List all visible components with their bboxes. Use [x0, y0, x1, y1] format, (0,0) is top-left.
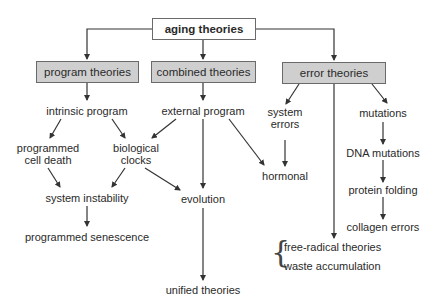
node-system-instability: system instability	[45, 192, 128, 204]
node-evolution: evolution	[181, 193, 225, 205]
node-biological-clocks-line2: clocks	[121, 154, 152, 166]
node-system-errors-line1: system	[268, 106, 303, 118]
node-biological-clocks: biological clocks	[113, 142, 159, 166]
node-free-radical-theories: free-radical theories	[284, 241, 381, 253]
node-mutations: mutations	[359, 107, 407, 119]
node-programmed-cell-death-line2: cell death	[24, 154, 71, 166]
category-combined-theories: combined theories	[151, 61, 256, 83]
node-programmed-cell-death: programmed cell death	[17, 142, 79, 166]
category-error-theories: error theories	[282, 62, 386, 84]
node-biological-clocks-line1: biological	[113, 142, 159, 154]
category-program-theories: program theories	[36, 61, 139, 83]
aging-theories-diagram: aging theories program theories combined…	[0, 0, 437, 307]
node-unified-theories: unified theories	[166, 284, 241, 296]
node-hormonal: hormonal	[262, 170, 308, 182]
node-system-errors: system errors	[268, 106, 303, 130]
node-protein-folding: protein folding	[348, 184, 417, 196]
node-waste-accumulation: waste accumulation	[284, 260, 381, 272]
node-dna-mutations: DNA mutations	[346, 147, 419, 159]
node-intrinsic-program: intrinsic program	[46, 105, 127, 117]
node-system-errors-line2: errors	[271, 118, 300, 130]
node-programmed-senescence: programmed senescence	[25, 231, 149, 243]
node-collagen-errors: collagen errors	[347, 221, 420, 233]
node-external-program: external program	[161, 105, 244, 117]
node-programmed-cell-death-line1: programmed	[17, 142, 79, 154]
root-aging-theories: aging theories	[152, 18, 256, 40]
